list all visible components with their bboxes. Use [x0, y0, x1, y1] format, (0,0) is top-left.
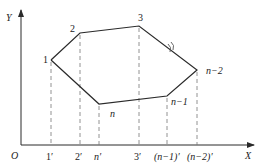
projection-label-2: 2′	[75, 151, 82, 162]
projection-label-n: n′	[94, 151, 102, 162]
vertex-label-n-1: n−1	[171, 96, 188, 107]
projection-label-3: 3′	[134, 151, 141, 162]
vertex-label-2: 2	[70, 23, 75, 34]
projection-label-n-1: (n−1)′	[154, 151, 180, 163]
vertex-label-n: n	[110, 108, 115, 119]
polygon-outline	[51, 26, 197, 104]
y-axis-label: Y	[6, 12, 13, 23]
projection-label-n-2: (n−2)′	[187, 151, 213, 163]
projection-label-1: 1′	[46, 151, 53, 162]
vertex-label-n-2: n−2	[206, 65, 223, 76]
vertex-label-1: 1	[43, 54, 48, 65]
x-axis-label: X	[244, 150, 252, 161]
projection-lines	[51, 28, 197, 145]
break-symbol-icon	[168, 42, 174, 52]
vertex-label-3: 3	[138, 12, 143, 23]
polygon-projection-diagram: 1 2 3 n−2 n−1 n Y O X 1′ 2′ n′ 3′ (n−1)′…	[0, 0, 261, 167]
origin-label: O	[11, 150, 18, 161]
